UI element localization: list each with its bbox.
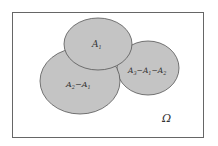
label-a3-minus-a1-minus-a2: A3−A1−A2 [127,66,166,76]
universe-label-omega: Ω [161,112,171,125]
venn-diagram: A1 A2−A1 A3−A1−A2 Ω [0,0,218,146]
label-a2-minus-a1: A2−A1 [65,80,91,90]
